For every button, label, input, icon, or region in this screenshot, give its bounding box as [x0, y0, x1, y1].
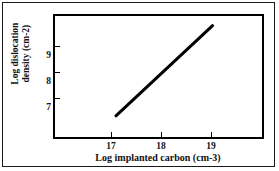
data-line-chart: [55, 16, 262, 137]
figure-outer-frame: 9 8 7 17 18 19 Log dislocation density (…: [2, 2, 275, 167]
y-axis-tick-label-group: 9 8 7: [33, 14, 51, 139]
y-axis-title: Log dislocation density (cm-2): [10, 0, 31, 114]
plot-frame: [53, 14, 264, 139]
x-tick-label-18: 18: [150, 142, 172, 152]
y-axis-title-line2: density (cm-2): [21, 0, 32, 114]
y-axis-title-line1: Log dislocation: [10, 0, 21, 114]
plot-area: [55, 16, 262, 137]
series-line-dislocation-density: [116, 26, 213, 116]
y-tick-label-8: 8: [37, 77, 51, 87]
y-tick-label-7: 7: [37, 103, 51, 113]
x-tick-label-17: 17: [100, 142, 122, 152]
y-tick-label-9: 9: [37, 51, 51, 61]
x-axis-title: Log implanted carbon (cm-3): [43, 153, 273, 163]
x-tick-label-19: 19: [200, 142, 222, 152]
